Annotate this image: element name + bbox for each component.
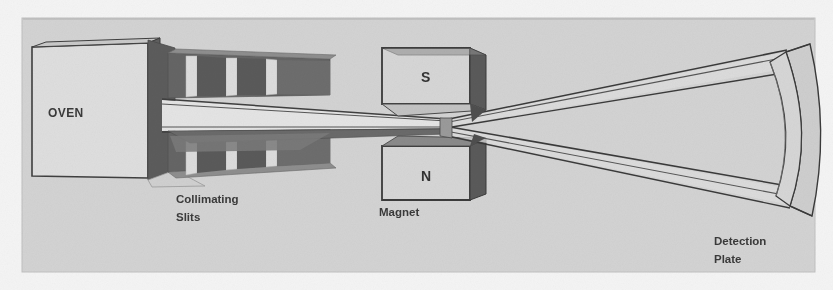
beam-convergence-node	[440, 118, 452, 138]
oven-group: OVEN	[32, 38, 160, 178]
collimating-slits-upper-band	[168, 49, 336, 98]
slit-panel-upper-b	[237, 58, 266, 95]
stern-gerlach-figure: OVEN	[0, 0, 833, 290]
figure-canvas: OVEN	[0, 0, 833, 290]
slit-panel-upper-c	[277, 60, 330, 95]
magnet-label: Magnet	[379, 206, 419, 218]
collimating-slits-label-line2: Slits	[176, 211, 200, 223]
magnet-bottom-pole-side	[470, 138, 486, 200]
magnet-pole-label-n: N	[421, 168, 431, 184]
slit-panel-upper-a	[197, 56, 226, 96]
magnet-top-pole-top	[382, 48, 486, 55]
slit-gap-upper-1	[186, 56, 197, 97]
oven-label: OVEN	[48, 106, 84, 120]
magnet-pole-label-s: S	[421, 69, 430, 85]
slit-gap-upper-2	[226, 58, 237, 96]
slit-gap-upper-3	[266, 59, 277, 95]
magnet-top-pole-side	[470, 48, 486, 110]
collimating-slits-label-line1: Collimating	[176, 193, 239, 205]
detection-plate-label-line1: Detection	[714, 235, 766, 247]
detection-plate-label-line2: Plate	[714, 253, 742, 265]
